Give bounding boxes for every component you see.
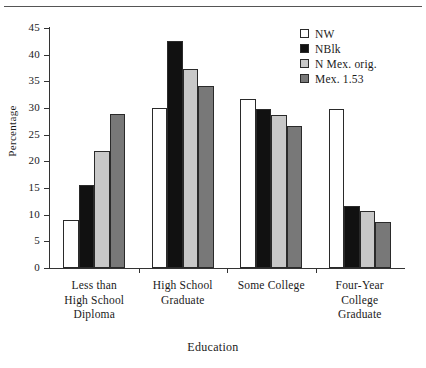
x-axis-category-label: Four-Year College Graduate xyxy=(310,278,411,322)
bar xyxy=(110,114,126,268)
bar xyxy=(271,115,287,268)
y-axis-tick-label: 35 xyxy=(14,75,40,86)
y-axis-tick-label: 5 xyxy=(14,235,40,246)
y-axis-tick xyxy=(44,188,49,189)
bar xyxy=(344,206,360,268)
x-axis-tick xyxy=(139,268,140,273)
y-axis-tick xyxy=(44,108,49,109)
x-axis-category-label: High School Graduate xyxy=(133,278,234,307)
legend-item: NW xyxy=(300,26,420,41)
bar xyxy=(329,109,345,268)
y-axis-tick xyxy=(44,241,49,242)
legend-item: N Mex. orig. xyxy=(300,56,420,71)
bar-chart-figure: Percentage 051015202530354045 Less than … xyxy=(0,0,426,368)
y-axis-tick-label: 40 xyxy=(14,49,40,60)
legend-item-label: N Mex. orig. xyxy=(315,58,377,70)
y-axis-tick xyxy=(44,215,49,216)
bar xyxy=(360,211,376,268)
bar xyxy=(94,151,110,268)
y-axis-tick xyxy=(44,161,49,162)
bar xyxy=(198,86,214,268)
x-axis-tick xyxy=(316,268,317,273)
x-axis-tick xyxy=(227,268,228,273)
legend-swatch-icon xyxy=(300,74,309,83)
legend-item: NBlk xyxy=(300,41,420,56)
legend-swatch-icon xyxy=(300,29,309,38)
bar xyxy=(256,109,272,268)
y-axis-tick xyxy=(44,28,49,29)
y-axis-tick-label: 20 xyxy=(14,155,40,166)
legend-item: Mex. 1.53 xyxy=(300,71,420,86)
bar xyxy=(63,220,79,268)
bar xyxy=(240,99,256,268)
y-axis-tick-label: 25 xyxy=(14,129,40,140)
y-axis-tick-label: 15 xyxy=(14,182,40,193)
bar xyxy=(79,185,95,268)
bar xyxy=(287,126,303,268)
y-axis-tick-label: 30 xyxy=(14,102,40,113)
y-axis-tick-label: 10 xyxy=(14,209,40,220)
y-axis-tick xyxy=(44,135,49,136)
bar xyxy=(183,69,199,268)
y-axis-tick-label: 45 xyxy=(14,22,40,33)
bar xyxy=(375,222,391,268)
top-divider-rule xyxy=(4,6,422,7)
y-axis-tick xyxy=(44,55,49,56)
legend-item-label: NW xyxy=(315,28,335,40)
legend-item-label: Mex. 1.53 xyxy=(315,73,364,85)
bar xyxy=(152,108,168,268)
x-axis-category-label: Less than High School Diploma xyxy=(44,278,145,322)
y-axis-tick xyxy=(44,268,49,269)
x-axis-category-label: Some College xyxy=(221,278,322,293)
legend: NWNBlkN Mex. orig.Mex. 1.53 xyxy=(300,26,420,86)
x-axis-title: Education xyxy=(0,340,426,355)
bar xyxy=(167,41,183,268)
legend-item-label: NBlk xyxy=(315,43,341,55)
legend-swatch-icon xyxy=(300,59,309,68)
legend-swatch-icon xyxy=(300,44,309,53)
y-axis-tick-label: 0 xyxy=(14,262,40,273)
y-axis-tick xyxy=(44,81,49,82)
